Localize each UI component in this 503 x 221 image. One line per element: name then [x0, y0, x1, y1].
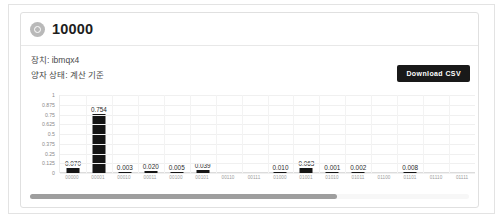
- horizontal-scrollbar-thumb[interactable]: [30, 194, 337, 199]
- x-tick-label: 01000: [267, 175, 293, 185]
- x-tick-label: 00111: [241, 175, 267, 185]
- page-title: 10000: [52, 21, 93, 37]
- x-tick-label: 00010: [111, 175, 137, 185]
- y-tick-label: 0.5: [48, 131, 55, 137]
- vertical-gridline: [242, 95, 243, 173]
- gridline: [60, 173, 475, 174]
- y-tick-label: 0.375: [42, 141, 55, 147]
- x-tick-label: 01101: [397, 175, 423, 185]
- circle-dot-icon: [30, 22, 45, 37]
- vertical-gridline: [190, 95, 191, 173]
- vertical-gridline: [449, 95, 450, 173]
- vertical-gridline: [86, 95, 87, 173]
- card-header: 10000: [21, 13, 478, 46]
- vertical-gridline: [216, 95, 217, 173]
- bar-value-label: 0.003: [117, 164, 133, 171]
- x-tick-label: 00110: [215, 175, 241, 185]
- plot-area: 0.0700.7540.0030.0200.0050.0390.0100.063…: [59, 95, 475, 173]
- y-tick-label: 1: [52, 92, 55, 98]
- vertical-gridline: [319, 95, 320, 173]
- vertical-gridline: [345, 95, 346, 173]
- x-tick-label: 00000: [59, 175, 85, 185]
- x-tick-label: 00101: [189, 175, 215, 185]
- bar-value-label: 0.002: [350, 164, 366, 171]
- vertical-gridline: [268, 95, 269, 173]
- horizontal-scrollbar-track[interactable]: [30, 194, 469, 199]
- y-axis: 10.8750.750.6250.50.3750.250.1250: [21, 95, 58, 173]
- bar-value-label: 0.008: [402, 164, 418, 171]
- quantum-state-label: 양자 상태: 계산 기준: [31, 68, 104, 80]
- x-tick-label: 01010: [319, 175, 345, 185]
- vertical-gridline: [397, 95, 398, 173]
- bar-value-label: 0.005: [169, 164, 185, 171]
- x-tick-label: 01111: [449, 175, 475, 185]
- x-tick-label: 00011: [137, 175, 163, 185]
- y-tick-label: 0.875: [42, 102, 55, 108]
- bar-value-label: 0.001: [324, 164, 340, 171]
- x-axis-labels: 0000000001000100001100100001010011000111…: [59, 175, 475, 185]
- bar-value-label: 0.020: [143, 163, 159, 170]
- histogram-chart: 10.8750.750.6250.50.3750.250.1250 0.0700…: [21, 83, 479, 191]
- bar-value-label: 0.010: [272, 164, 288, 171]
- vertical-gridline: [293, 95, 294, 173]
- y-tick-label: 0.75: [45, 112, 55, 118]
- y-tick-label: 0: [52, 170, 55, 176]
- device-label: 장치: ibmqx4: [31, 53, 79, 65]
- bar-value-label: 0.754: [91, 106, 107, 113]
- y-tick-label: 0.25: [45, 151, 55, 157]
- vertical-gridline: [112, 95, 113, 173]
- x-tick-label: 01001: [293, 175, 319, 185]
- y-tick-label: 0.125: [42, 160, 55, 166]
- vertical-gridline: [371, 95, 372, 173]
- vertical-gridline: [164, 95, 165, 173]
- x-tick-label: 01110: [423, 175, 449, 185]
- screenshot-root: 10000 장치: ibmqx4 양자 상태: 계산 기준 Download C…: [0, 0, 503, 221]
- x-tick-label: 01011: [345, 175, 371, 185]
- x-tick-label: 00001: [85, 175, 111, 185]
- result-card: 10000 장치: ibmqx4 양자 상태: 계산 기준 Download C…: [20, 12, 479, 208]
- x-tick-label: 00100: [163, 175, 189, 185]
- x-tick-label: 01100: [371, 175, 397, 185]
- vertical-gridline: [138, 95, 139, 173]
- y-tick-label: 0.625: [42, 121, 55, 127]
- vertical-gridline: [423, 95, 424, 173]
- download-csv-button[interactable]: Download CSV: [397, 65, 470, 82]
